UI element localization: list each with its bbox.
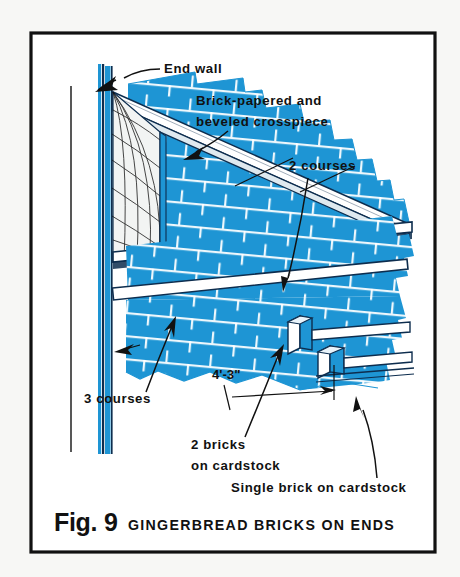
figure-container: End wall Brick-papered and beveled cross… bbox=[0, 0, 460, 577]
label-single-brick: Single brick on cardstock bbox=[231, 480, 407, 495]
label-three-courses: 3 courses bbox=[84, 391, 151, 406]
label-two-bricks-line2: on cardstock bbox=[191, 458, 280, 473]
figure-illustration: End wall Brick-papered and beveled cross… bbox=[0, 0, 460, 577]
label-crosspiece-line1: Brick-papered and bbox=[196, 93, 322, 108]
label-end-wall: End wall bbox=[164, 61, 222, 76]
caption-title: GINGERBREAD BRICKS ON ENDS bbox=[128, 517, 395, 533]
label-crosspiece-line2: beveled crosspiece bbox=[196, 114, 329, 129]
label-dimension: 4'-3" bbox=[212, 367, 240, 382]
label-two-bricks-line1: 2 bricks bbox=[191, 437, 246, 452]
caption-figure-number: Fig. 9 bbox=[54, 508, 117, 536]
